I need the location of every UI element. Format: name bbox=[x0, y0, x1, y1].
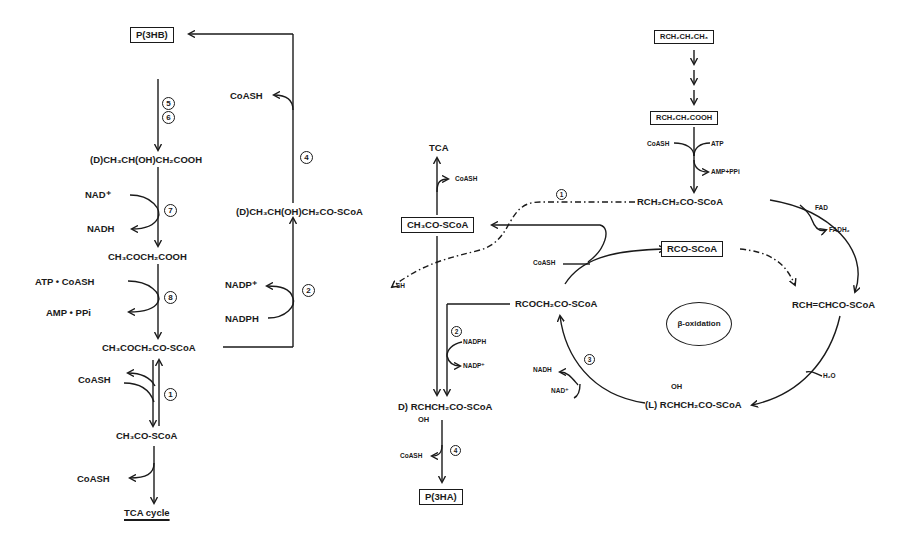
l-oh-label: OH bbox=[671, 383, 682, 391]
h2o-label: H₂O bbox=[823, 373, 836, 380]
amp-ppi-right-label: AMP+PPi bbox=[711, 169, 740, 176]
nadh-label: NADH bbox=[87, 224, 114, 234]
alkane-box: RCH₂CH₂CH₃ bbox=[654, 30, 714, 44]
d-3hb-coa-label: (D)CH₃CH(OH)CH₂CO-SCoA bbox=[236, 207, 363, 217]
step-7-badge: 7 bbox=[164, 204, 177, 217]
d-hydroxyacyl-coa-label: D) RCHCH₂CO-SCoA bbox=[398, 402, 492, 412]
coash-step1-label: CoASH bbox=[78, 375, 111, 385]
tca-label: TCA bbox=[429, 143, 449, 153]
acyl-coa-label: RCH₂CH₂CO-SCoA bbox=[637, 197, 723, 207]
acetoacetyl-coa-label: CH₃COCH₂CO-SCoA bbox=[102, 343, 196, 353]
coash-activation-label: CoASH bbox=[647, 141, 669, 148]
nadp-plus-right-label: NADP⁺ bbox=[463, 363, 485, 370]
step-2-right-badge: 2 bbox=[451, 326, 462, 337]
atp-coash-label: ATP • CoASH bbox=[35, 277, 94, 287]
step-1-right-badge: 1 bbox=[556, 189, 567, 200]
step-1-badge: 1 bbox=[164, 388, 177, 401]
enoyl-coa-label: RCH=CHCO-SCoA bbox=[792, 300, 875, 310]
fadh2-label: FADH₂ bbox=[829, 227, 850, 234]
rco-scoa-box: RCO-SCoA bbox=[661, 241, 723, 257]
coash-pha-label: CoASH bbox=[400, 453, 422, 460]
nadph-label: NADPH bbox=[225, 314, 259, 324]
fatty-acid-box: RCH₂CH₂COOH bbox=[650, 111, 718, 125]
pathway-arrows bbox=[0, 0, 922, 547]
l-hydroxyacyl-coa-label: (L) RCHCH₂CO-SCoA bbox=[645, 400, 742, 410]
step-6-badge: 6 bbox=[162, 111, 175, 124]
acetyl-coa-label: CH₃CO-SCoA bbox=[116, 431, 177, 441]
amp-ppi-label: AMP • PPi bbox=[46, 308, 91, 318]
fad-label: FAD bbox=[815, 205, 828, 212]
acetoacetate-label: CH₃COCH₂COOH bbox=[108, 252, 187, 262]
acetyl-coa-box: CH₃CO-SCoA bbox=[401, 217, 474, 233]
nad-plus-label: NAD⁺ bbox=[85, 190, 111, 200]
step-8-badge: 8 bbox=[164, 291, 177, 304]
coash-step4-label: CoASH bbox=[230, 91, 263, 101]
d-3hb-acid-label: (D)CH₃CH(OH)CH₂COOH bbox=[90, 155, 202, 165]
step-4-badge: 4 bbox=[300, 151, 313, 164]
coash-thiolase-label: CoASH bbox=[533, 260, 555, 267]
d-oh-label: OH bbox=[418, 416, 429, 424]
nad-plus-right-label: NAD⁺ bbox=[551, 388, 569, 395]
sh-partial-label: SH bbox=[396, 283, 405, 290]
coash-tca-right-label: CoASH bbox=[455, 176, 477, 183]
coash-tca-label: CoASH bbox=[77, 474, 110, 484]
p3ha-box: P(3HA) bbox=[419, 489, 463, 505]
step-2-badge: 2 bbox=[302, 284, 315, 297]
step-5-badge: 5 bbox=[162, 97, 175, 110]
p3hb-box: P(3HB) bbox=[130, 27, 174, 43]
nadh-right-label: NADH bbox=[533, 367, 552, 374]
tca-cycle-label: TCA cycle bbox=[124, 508, 170, 518]
ketoacyl-coa-label: RCOCH₂CO-SCoA bbox=[515, 299, 597, 309]
step-3-badge: 3 bbox=[584, 354, 595, 365]
nadp-plus-label: NADP⁺ bbox=[225, 280, 257, 290]
step-4-right-badge: 4 bbox=[450, 445, 461, 456]
beta-oxidation-oval: β-oxidation bbox=[666, 302, 732, 346]
nadph-right-label: NADPH bbox=[463, 339, 486, 346]
atp-label: ATP bbox=[711, 141, 724, 148]
